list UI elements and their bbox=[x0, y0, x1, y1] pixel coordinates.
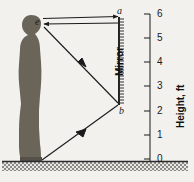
ray-group bbox=[42, 17, 118, 161]
label-mirror: Mirror bbox=[115, 47, 125, 76]
axis-tick-label-4: 4 bbox=[157, 57, 163, 67]
ray-mirror-top-to-eye bbox=[44, 23, 118, 24]
ray-arrowhead-mid-lower bbox=[76, 129, 86, 137]
label-eye: e bbox=[35, 17, 39, 27]
axis-tick-label-5: 5 bbox=[157, 33, 163, 43]
axis-tick-label-0: 0 bbox=[157, 154, 163, 164]
axis-tick-label-3: 3 bbox=[157, 81, 163, 91]
ray-mirror-bottom-to-eye bbox=[44, 27, 118, 103]
person-silhouette bbox=[19, 15, 42, 161]
label-mirror-top: a bbox=[117, 6, 122, 16]
height-axis bbox=[144, 14, 150, 161]
label-mirror-bottom: b bbox=[119, 106, 124, 116]
axis-tick-label-6: 6 bbox=[157, 9, 163, 19]
axis-tick-label-2: 2 bbox=[157, 106, 163, 116]
ray-eye-to-mirror-top bbox=[43, 17, 118, 19]
diagram-svg bbox=[0, 0, 194, 182]
axis-title: Height, ft bbox=[176, 85, 186, 128]
figure-canvas: e a b Mirror Height, ft 6 5 4 3 2 1 0 bbox=[0, 0, 194, 182]
axis-tick-label-1: 1 bbox=[157, 130, 163, 140]
